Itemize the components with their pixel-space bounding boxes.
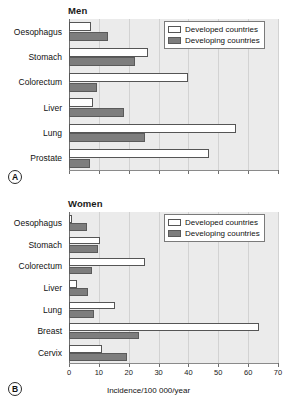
category-label-stomach: Stomach bbox=[28, 240, 62, 250]
legend-row-developing[interactable]: Developing countries bbox=[168, 228, 260, 238]
bar-oesophagus-developed bbox=[69, 22, 91, 31]
bar-liver-developing bbox=[69, 108, 124, 117]
gridline bbox=[278, 19, 279, 171]
legend-swatch-developing-icon bbox=[168, 37, 181, 44]
bar-lung-developed bbox=[69, 124, 236, 133]
category-label-oesophagus: Oesophagus bbox=[14, 27, 62, 37]
bar-breast-developed bbox=[69, 323, 259, 331]
x-axis-tick bbox=[278, 363, 279, 367]
x-axis-line bbox=[69, 363, 278, 364]
x-axis-tick-label: 30 bbox=[149, 368, 169, 377]
gridline bbox=[278, 212, 279, 364]
panel-tag-a: A bbox=[8, 170, 22, 184]
bar-prostate-developed bbox=[69, 149, 209, 158]
bar-cervix-developing bbox=[69, 353, 127, 361]
category-label-oesophagus: Oesophagus bbox=[14, 218, 62, 228]
x-axis-tick-label: 20 bbox=[119, 368, 139, 377]
bar-lung-developing bbox=[69, 133, 145, 142]
x-axis-tick-label: 10 bbox=[89, 368, 109, 377]
category-label-colorectum: Colorectum bbox=[19, 261, 62, 271]
legend-swatch-developed-icon bbox=[168, 26, 181, 33]
bar-liver-developing bbox=[69, 288, 88, 296]
category-label-cervix: Cervix bbox=[38, 348, 62, 358]
x-axis-tick bbox=[278, 170, 279, 174]
bar-stomach-developed bbox=[69, 48, 148, 57]
gridline bbox=[159, 212, 160, 364]
x-axis-title: Incidence/100 000/year bbox=[0, 386, 297, 395]
legend-label-developed: Developed countries bbox=[185, 25, 258, 34]
chart-panel-women: Women 010203040506070OesophagusStomachCo… bbox=[0, 196, 297, 401]
x-axis-tick-label: 50 bbox=[208, 368, 228, 377]
legend-women: Developed countries Developing countries bbox=[164, 214, 265, 242]
x-axis-tick-label: 70 bbox=[268, 368, 288, 377]
x-axis-line bbox=[69, 170, 278, 171]
panel-title-women: Women bbox=[68, 198, 103, 209]
legend-label-developed: Developed countries bbox=[185, 218, 258, 227]
x-axis-tick-label: 40 bbox=[178, 368, 198, 377]
gridline bbox=[99, 212, 100, 364]
category-label-stomach: Stomach bbox=[28, 52, 62, 62]
category-label-breast: Breast bbox=[37, 326, 62, 336]
bar-stomach-developing bbox=[69, 57, 135, 66]
panel-tag-b: B bbox=[8, 382, 22, 396]
bar-colorectum-developed bbox=[69, 258, 145, 266]
bar-stomach-developing bbox=[69, 245, 98, 253]
bar-oesophagus-developing bbox=[69, 223, 87, 231]
bar-colorectum-developing bbox=[69, 267, 92, 275]
bar-colorectum-developed bbox=[69, 73, 188, 82]
bar-prostate-developing bbox=[69, 159, 90, 168]
legend-label-developing: Developing countries bbox=[185, 36, 260, 45]
gridline bbox=[129, 212, 130, 364]
category-label-colorectum: Colorectum bbox=[19, 77, 62, 87]
bar-cervix-developed bbox=[69, 345, 102, 353]
bar-stomach-developed bbox=[69, 237, 100, 245]
x-axis-tick-label: 0 bbox=[59, 368, 79, 377]
panel-title-men: Men bbox=[68, 5, 87, 16]
category-label-liver: Liver bbox=[44, 103, 62, 113]
legend-row-developed[interactable]: Developed countries bbox=[168, 25, 260, 35]
bar-breast-developing bbox=[69, 332, 139, 340]
category-label-lung: Lung bbox=[43, 305, 62, 315]
category-label-prostate: Prostate bbox=[30, 153, 62, 163]
bar-lung-developed bbox=[69, 302, 115, 310]
legend-men: Developed countries Developing countries bbox=[164, 21, 265, 49]
category-label-liver: Liver bbox=[44, 283, 62, 293]
legend-row-developed[interactable]: Developed countries bbox=[168, 218, 260, 228]
category-label-lung: Lung bbox=[43, 128, 62, 138]
bar-lung-developing bbox=[69, 310, 94, 318]
bar-colorectum-developing bbox=[69, 83, 97, 92]
bar-oesophagus-developing bbox=[69, 32, 108, 41]
chart-panel-men: Men OesophagusStomachColorectumLiverLung… bbox=[0, 0, 297, 196]
bar-liver-developed bbox=[69, 98, 93, 107]
bar-oesophagus-developed bbox=[69, 215, 72, 223]
legend-swatch-developing-icon bbox=[168, 230, 181, 237]
legend-label-developing: Developing countries bbox=[185, 229, 260, 238]
x-axis-tick-label: 60 bbox=[238, 368, 258, 377]
bar-liver-developed bbox=[69, 280, 77, 288]
legend-row-developing[interactable]: Developing countries bbox=[168, 35, 260, 45]
legend-swatch-developed-icon bbox=[168, 219, 181, 226]
